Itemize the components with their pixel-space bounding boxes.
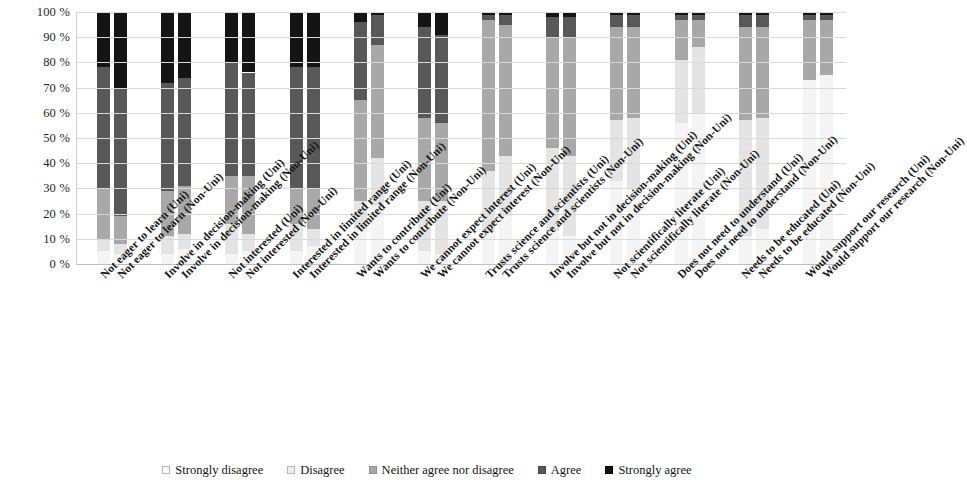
bar-segment	[161, 83, 174, 191]
gridline	[76, 138, 846, 139]
y-axis-tick-label: 40 %	[43, 157, 70, 169]
x-axis-labels: Not eager to learn (Uni)Not eager to lea…	[0, 268, 854, 438]
y-axis-tick-label: 70 %	[43, 82, 70, 94]
bar-segment	[499, 15, 512, 25]
bar-segment	[820, 15, 833, 20]
bar-segment	[546, 37, 559, 148]
bar-segment	[97, 67, 110, 188]
bar-segment	[161, 12, 174, 83]
bar-segment	[756, 15, 769, 28]
gridline	[76, 88, 846, 89]
legend-swatch-icon	[538, 466, 546, 474]
bar-segment	[739, 27, 752, 120]
gridline	[76, 12, 846, 13]
bar-segment	[114, 12, 127, 88]
legend-swatch-icon	[287, 466, 295, 474]
legend-swatch-icon	[162, 466, 170, 474]
gridline	[76, 163, 846, 164]
bar-segment	[307, 12, 320, 67]
bar-segment	[675, 20, 688, 60]
bar-segment	[178, 12, 191, 78]
bar-segment	[692, 20, 705, 48]
bar-segment	[627, 15, 640, 28]
legend-item[interactable]: Strongly agree	[605, 463, 691, 478]
gridline	[76, 62, 846, 63]
bar-segment	[435, 35, 448, 123]
bar-segment	[675, 15, 688, 20]
bar-segment	[418, 12, 431, 27]
bar-segment	[371, 15, 384, 45]
bar-segment	[803, 15, 816, 20]
legend-item[interactable]: Strongly disagree	[162, 463, 263, 478]
bar-segment	[290, 12, 303, 67]
bar-segment	[114, 88, 127, 217]
bar-segment	[354, 12, 367, 22]
chart-legend: Strongly disagreeDisagreeNeither agree n…	[0, 458, 854, 482]
bar-segment	[627, 27, 640, 118]
gridline	[76, 37, 846, 38]
bar-segment	[482, 15, 495, 20]
legend-swatch-icon	[605, 466, 613, 474]
legend-label: Disagree	[300, 463, 344, 478]
bar-segment	[820, 75, 833, 264]
bar-segment	[692, 15, 705, 20]
legend-label: Neither agree nor disagree	[382, 463, 514, 478]
bar-segment	[242, 12, 255, 72]
bar-segment	[482, 20, 495, 171]
y-axis-tick-label: 80 %	[43, 56, 70, 68]
y-axis-tick-label: 10 %	[43, 233, 70, 245]
bar-segment	[563, 17, 576, 37]
legend-label: Agree	[551, 463, 582, 478]
bar-segment	[756, 27, 769, 118]
legend-item[interactable]: Agree	[538, 463, 582, 478]
bar-segment	[307, 67, 320, 188]
bar-segment	[610, 27, 623, 120]
y-axis-tick-label: 20 %	[43, 208, 70, 220]
bar-segment	[225, 62, 238, 175]
bar-segment	[820, 20, 833, 75]
bar-segment	[97, 12, 110, 67]
bar-segment	[610, 15, 623, 28]
bar-segment	[739, 15, 752, 28]
bar-segment	[546, 17, 559, 37]
bar-segment	[418, 27, 431, 118]
legend-item[interactable]: Disagree	[287, 463, 344, 478]
legend-item[interactable]: Neither agree nor disagree	[369, 463, 514, 478]
bar-segment	[692, 47, 705, 113]
bar-segment	[354, 100, 367, 201]
y-axis-tick-label: 50 %	[43, 132, 70, 144]
y-axis-tick-label: 90 %	[43, 31, 70, 43]
legend-swatch-icon	[369, 466, 377, 474]
bar-segment	[435, 12, 448, 35]
gridline	[76, 113, 846, 114]
y-axis-tick-label: 30 %	[43, 182, 70, 194]
legend-label: Strongly disagree	[175, 463, 263, 478]
legend-label: Strongly agree	[618, 463, 691, 478]
bar-segment	[803, 20, 816, 80]
bar-segment	[97, 239, 110, 252]
bar-segment	[178, 78, 191, 186]
bar-segment	[499, 25, 512, 156]
y-axis-tick-label: 100 %	[37, 6, 70, 18]
y-axis: 0 %10 %20 %30 %40 %50 %60 %70 %80 %90 %1…	[0, 0, 74, 280]
y-axis-tick-label: 60 %	[43, 107, 70, 119]
